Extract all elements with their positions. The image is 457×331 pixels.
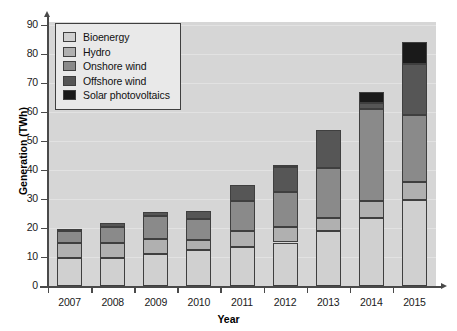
bar-segment xyxy=(273,243,298,287)
bar-2012 xyxy=(273,22,298,286)
legend-item-offshore-wind: Offshore wind xyxy=(63,74,170,89)
bar-segment xyxy=(100,243,125,258)
bar-2013 xyxy=(316,22,341,286)
x-axis-tick xyxy=(220,287,221,293)
bar-2015 xyxy=(402,22,427,286)
legend-swatch-icon xyxy=(63,32,76,42)
y-axis-tick xyxy=(41,257,47,258)
x-axis-tick xyxy=(134,287,135,293)
bar-segment xyxy=(143,216,168,239)
legend-swatch-icon xyxy=(63,76,76,86)
legend-item-onshore-wind: Onshore wind xyxy=(63,59,170,74)
x-axis-tick xyxy=(264,287,265,293)
bar-segment xyxy=(57,258,82,286)
bar-segment xyxy=(100,223,125,226)
bar-segment xyxy=(273,227,298,242)
bar-segment xyxy=(316,231,341,286)
bar-segment xyxy=(273,167,298,192)
bar-segment xyxy=(402,200,427,286)
x-axis-tick xyxy=(307,287,308,293)
legend-item-bioenergy: Bioenergy xyxy=(63,30,170,45)
bar-segment xyxy=(57,229,82,231)
bar-segment xyxy=(273,192,298,227)
legend-swatch-icon xyxy=(63,47,76,57)
bar-segment xyxy=(186,250,211,286)
bar-segment xyxy=(143,212,168,215)
y-axis-tick xyxy=(41,286,47,287)
y-axis-tick xyxy=(41,83,47,84)
x-axis-tick-label: 2015 xyxy=(389,296,439,308)
legend-swatch-icon xyxy=(63,90,76,100)
bar-segment xyxy=(402,182,427,200)
y-axis-title: Generation (TWh) xyxy=(17,71,29,231)
bar-segment xyxy=(359,109,384,201)
bar-segment xyxy=(230,201,255,231)
y-axis-tick xyxy=(41,112,47,113)
bar-segment xyxy=(143,239,168,254)
x-axis-tick xyxy=(91,287,92,293)
y-axis-line xyxy=(47,16,49,286)
bar-2010 xyxy=(186,22,211,286)
bar-segment xyxy=(57,243,82,258)
bar-segment xyxy=(316,168,341,218)
legend-label: Hydro xyxy=(83,46,111,58)
x-axis-tick xyxy=(177,287,178,293)
y-axis-tick xyxy=(41,54,47,55)
y-axis-tick-label: 80 xyxy=(0,47,38,59)
bar-segment xyxy=(359,201,384,218)
bar-2014 xyxy=(359,22,384,286)
legend-label: Onshore wind xyxy=(83,60,147,72)
y-axis-tick xyxy=(41,25,47,26)
bar-segment xyxy=(143,254,168,286)
bar-segment xyxy=(402,64,427,115)
legend-swatch-icon xyxy=(63,61,76,71)
legend-label: Solar photovoltaics xyxy=(83,89,170,101)
x-axis-line xyxy=(40,286,442,288)
bar-segment xyxy=(186,211,211,219)
legend-label: Offshore wind xyxy=(83,75,146,87)
y-axis-tick xyxy=(41,141,47,142)
bar-segment xyxy=(186,240,211,250)
legend-item-solar-photovoltaics: Solar photovoltaics xyxy=(63,88,170,103)
bar-segment xyxy=(402,42,427,64)
bar-segment xyxy=(100,227,125,244)
bar-segment xyxy=(359,92,384,104)
y-axis-tick xyxy=(41,199,47,200)
y-axis-tick xyxy=(41,170,47,171)
bar-segment xyxy=(316,130,341,168)
x-axis-arrow-icon xyxy=(441,283,447,289)
y-axis-tick-label: 10 xyxy=(0,250,38,262)
stacked-bar-chart: 0102030405060708090 20072008200920102011… xyxy=(0,0,457,331)
y-axis-tick-label: 90 xyxy=(0,18,38,30)
x-axis-tick xyxy=(48,287,49,293)
bar-segment xyxy=(316,218,341,230)
bar-segment xyxy=(100,258,125,286)
chart-legend: BioenergyHydroOnshore windOffshore windS… xyxy=(55,23,181,110)
bar-segment xyxy=(186,219,211,240)
y-axis-tick-label: 0 xyxy=(0,279,38,291)
bar-segment xyxy=(230,247,255,286)
x-axis-tick xyxy=(393,287,394,293)
x-axis-title: Year xyxy=(0,313,457,325)
bar-2011 xyxy=(230,22,255,286)
y-axis-arrow-icon xyxy=(44,11,50,17)
bar-segment xyxy=(359,218,384,286)
bar-segment xyxy=(359,103,384,109)
bar-segment xyxy=(273,165,298,167)
x-axis-tick xyxy=(350,287,351,293)
y-axis-tick xyxy=(41,228,47,229)
bar-segment xyxy=(57,231,82,244)
bar-segment xyxy=(230,185,255,202)
bar-segment xyxy=(230,231,255,247)
legend-item-hydro: Hydro xyxy=(63,45,170,60)
bar-segment xyxy=(402,115,427,182)
legend-label: Bioenergy xyxy=(83,31,129,43)
